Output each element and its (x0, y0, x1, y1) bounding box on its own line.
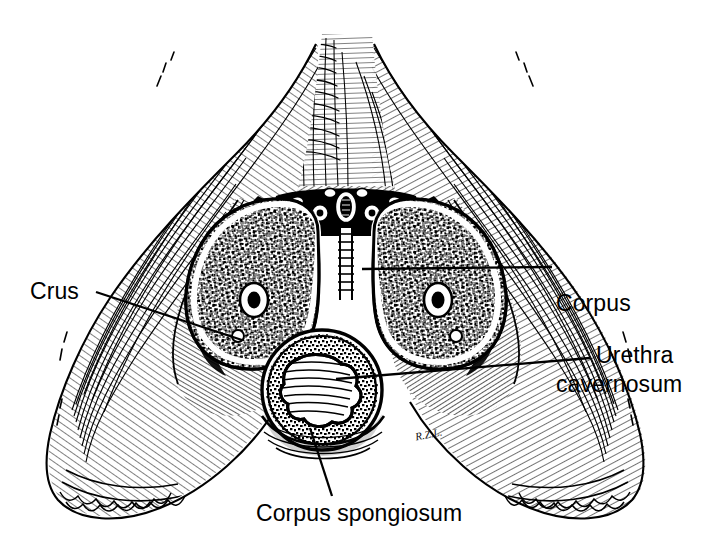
anatomical-figure: R.Z.L. Corpus cavernosum Crus Urethra Co… (0, 0, 708, 560)
deep-artery-left (240, 283, 268, 317)
corpus-spongiosum (262, 330, 384, 459)
label-corpus-cavernosum-line2: cavernosum (556, 371, 682, 398)
urethra-lumen (281, 355, 361, 427)
intercavernous-septum (338, 228, 354, 300)
label-corpus-cavernosum-line1: Corpus (556, 290, 682, 317)
label-urethra: Urethra (596, 342, 673, 369)
deep-artery-right (424, 283, 452, 317)
dorsal-vein (335, 191, 357, 223)
label-corpus-spongiosum: Corpus spongiosum (256, 500, 462, 527)
label-crus: Crus (30, 278, 79, 305)
